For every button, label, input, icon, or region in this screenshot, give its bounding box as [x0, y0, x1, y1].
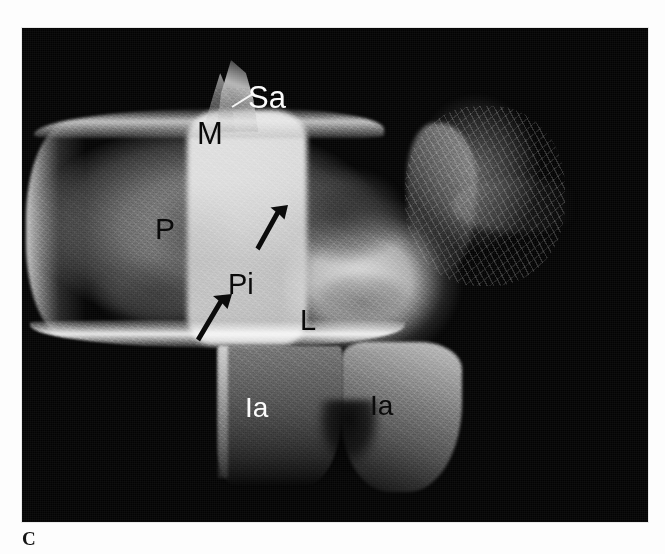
arrow-upper-icon — [254, 202, 294, 254]
radiograph-image: Sa M P Pi L Ia Ia — [22, 28, 648, 522]
label-m: M — [197, 118, 223, 149]
trabecular-texture-overlay — [28, 88, 498, 488]
transverse-process-right-shadow — [400, 88, 565, 288]
inferior-articular-left-cortex — [218, 346, 228, 478]
label-p: P — [155, 214, 175, 244]
label-ia-left: Ia — [245, 394, 268, 422]
label-ia-right: Ia — [370, 392, 393, 420]
label-l: L — [300, 306, 316, 335]
right-process-highlight — [407, 123, 477, 273]
panel-letter: C — [22, 528, 36, 550]
right-process-trabeculae — [405, 106, 565, 286]
transverse-process-tip-shadow — [452, 178, 582, 233]
inferior-articular-process-right-shadow — [342, 342, 462, 492]
trabecular-patch-right-mid — [302, 266, 422, 338]
figure-panel: Sa M P Pi L Ia Ia C — [0, 0, 665, 554]
label-sa: Sa — [248, 82, 286, 113]
arrow-lower-icon — [194, 290, 238, 346]
inferior-articular-process-left-shadow — [217, 346, 342, 486]
anterior-cortex-shadow — [26, 124, 86, 338]
